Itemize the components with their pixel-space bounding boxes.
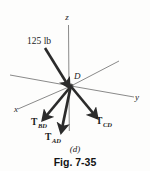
part-label: (d)	[70, 144, 81, 154]
axis-label-z: z	[64, 12, 69, 22]
y-axis-line	[71, 86, 134, 97]
force-arrow-tcd	[71, 87, 93, 113]
force-subscript-tad: AD	[51, 137, 61, 144]
free-body-diagram: z y x D 125 lb T BD T AD T CD (d) Fig. 7…	[0, 0, 150, 171]
force-symbol-tbd: T	[31, 117, 38, 127]
force-label-tcd: T CD	[96, 116, 112, 128]
axis-label-y: y	[134, 92, 139, 102]
axis-label-x: x	[13, 104, 18, 114]
figure-container: z y x D 125 lb T BD T AD T CD (d) Fig. 7…	[0, 0, 150, 171]
force-subscript-tbd: BD	[37, 122, 47, 129]
force-subscript-tcd: CD	[103, 121, 112, 128]
applied-load-arrow	[45, 48, 66, 82]
figure-caption: Fig. 7-35	[54, 156, 97, 168]
node-label-d: D	[73, 71, 81, 81]
force-symbol-tad: T	[45, 132, 52, 142]
z-axis-line	[69, 25, 70, 131]
force-label-tbd: T BD	[31, 117, 47, 129]
force-arrows	[47, 87, 93, 126]
applied-load-label: 125 lb	[27, 36, 51, 46]
force-symbol-tcd: T	[96, 116, 103, 126]
force-label-tad: T AD	[45, 132, 61, 144]
